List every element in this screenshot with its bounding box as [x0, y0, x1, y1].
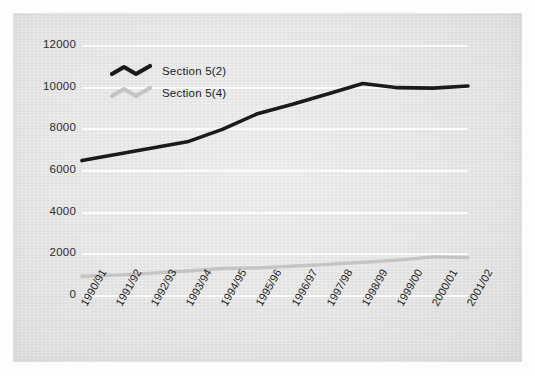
- x-axis-tick-label: 1998/99: [359, 267, 390, 308]
- x-axis-tick-label: 1994/95: [218, 267, 249, 308]
- x-axis-tick-label: 1990/91: [78, 267, 109, 308]
- x-axis-tick-label: 1999/00: [394, 267, 425, 308]
- x-axis-tick-label: 1996/97: [289, 267, 320, 308]
- x-axis-labels: 1990/911991/921992/931993/941994/951995/…: [0, 0, 535, 376]
- x-axis-tick-label: 1993/94: [183, 267, 214, 308]
- legend-label-section-5-2: Section 5(2): [162, 65, 226, 77]
- x-axis-tick-label: 1995/96: [253, 267, 284, 308]
- x-axis-tick-label: 1991/92: [113, 267, 144, 308]
- x-axis-tick-label: 1997/98: [324, 267, 355, 308]
- legend-label-section-5-4: Section 5(4): [162, 87, 226, 99]
- legend-item-section-5-2: Section 5(2): [110, 60, 290, 82]
- legend-swatch-section-5-4: [110, 85, 152, 101]
- x-axis-tick-label: 2001/02: [464, 267, 495, 308]
- chart-legend: Section 5(2) Section 5(4): [110, 60, 290, 104]
- chart-figure: 020004000600080001000012000 1990/911991/…: [0, 0, 535, 376]
- x-axis-tick-label: 2000/01: [429, 267, 460, 308]
- legend-swatch-section-5-2: [110, 63, 152, 79]
- legend-item-section-5-4: Section 5(4): [110, 82, 290, 104]
- x-axis-tick-label: 1992/93: [148, 267, 179, 308]
